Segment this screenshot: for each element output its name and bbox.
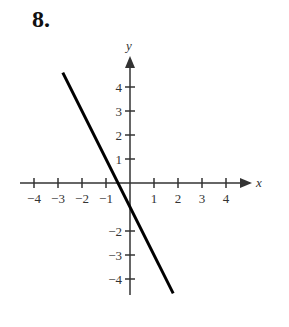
svg-text:−1: −1 (99, 191, 113, 206)
svg-text:2: 2 (116, 128, 123, 143)
svg-text:x: x (255, 175, 262, 190)
svg-text:4: 4 (116, 80, 123, 95)
svg-text:−3: −3 (51, 191, 65, 206)
svg-text:1: 1 (116, 152, 123, 167)
svg-text:−4: −4 (27, 191, 41, 206)
svg-text:−4: −4 (108, 272, 122, 287)
plot: x y −4−3−2−112344321−2−3−4 (0, 0, 289, 327)
svg-text:4: 4 (223, 191, 230, 206)
svg-text:−3: −3 (108, 248, 122, 263)
svg-text:3: 3 (199, 191, 206, 206)
svg-text:2: 2 (175, 191, 182, 206)
svg-text:−2: −2 (108, 224, 122, 239)
svg-text:1: 1 (151, 191, 158, 206)
svg-text:3: 3 (116, 104, 123, 119)
svg-text:−2: −2 (75, 191, 89, 206)
svg-text:y: y (124, 38, 132, 53)
figure: 8. x y −4−3−2−112344321−2−3−4 (0, 0, 289, 327)
